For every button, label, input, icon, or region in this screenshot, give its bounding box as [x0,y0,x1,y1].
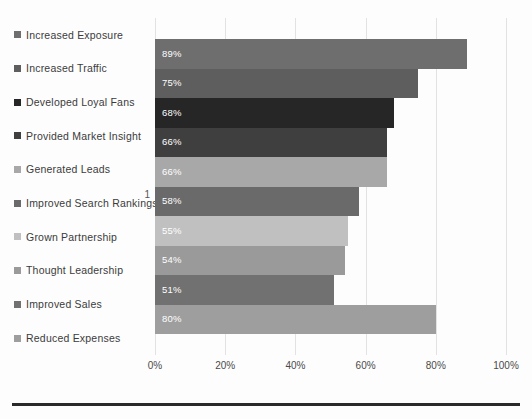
legend-item-label: Improved Sales [26,299,102,310]
legend-swatch-icon [14,132,21,139]
bar[interactable]: 68% [155,98,394,128]
plot-area: 89%75%68%66%66%58%55%54%51%80% [155,18,506,355]
x-axis-tick-label: 60% [356,360,376,371]
legend-item[interactable]: Increased Traffic [14,52,152,86]
legend-swatch-icon [14,166,21,173]
x-axis-ticks: 0%20%40%60%80%100% [155,360,506,376]
x-axis-tick-label: 80% [426,360,446,371]
bar[interactable]: 66% [155,157,387,187]
legend-item[interactable]: Improved Sales [14,288,152,322]
bar[interactable]: 51% [155,275,334,305]
legend-swatch-icon [14,335,21,342]
legend-item[interactable]: Thought Leadership [14,254,152,288]
bar-series: 89%75%68%66%66%58%55%54%51%80% [155,39,506,334]
legend-swatch-icon [14,200,21,207]
legend-item[interactable]: Reduced Expenses [14,321,152,355]
x-axis-tick-label: 100% [493,360,519,371]
bar-value-label: 55% [162,226,182,236]
bar[interactable]: 54% [155,246,345,276]
chart-screenshot: Increased ExposureIncreased TrafficDevel… [0,0,532,419]
x-axis-tick-label: 20% [215,360,235,371]
bar-value-label: 80% [162,315,182,325]
legend-swatch-icon [14,31,21,38]
legend-swatch-icon [14,267,21,274]
bar-row: 75% [155,69,506,99]
legend-item-label: Thought Leadership [26,265,123,276]
bar-row: 58% [155,187,506,217]
bar[interactable]: 89% [155,39,467,69]
bar-row: 80% [155,305,506,335]
legend-item-label: Generated Leads [26,164,110,175]
legend-item[interactable]: Generated Leads [14,153,152,187]
chart-legend: Increased ExposureIncreased TrafficDevel… [0,18,152,355]
legend-item[interactable]: Developed Loyal Fans [14,85,152,119]
legend-item[interactable]: Increased Exposure [14,18,152,52]
legend-swatch-icon [14,99,21,106]
bar-row: 51% [155,275,506,305]
bar-row: 89% [155,39,506,69]
bar-row: 66% [155,157,506,187]
legend-swatch-icon [14,65,21,72]
bar-row: 54% [155,246,506,276]
bar[interactable]: 80% [155,305,436,335]
gridline [506,18,507,355]
legend-swatch-icon [14,233,21,240]
bottom-divider [12,403,520,406]
legend-item-label: Reduced Expenses [26,333,120,344]
bar-row: 55% [155,216,506,246]
bar[interactable]: 55% [155,216,348,246]
bar-value-label: 58% [162,197,182,207]
bar[interactable]: 58% [155,187,359,217]
legend-item-label: Provided Market Insight [26,131,141,142]
bar-row: 68% [155,98,506,128]
bar-value-label: 66% [162,138,182,148]
x-axis-tick-label: 0% [148,360,162,371]
bar-value-label: 54% [162,256,182,266]
legend-item-label: Grown Partnership [26,232,117,243]
legend-item[interactable]: Grown Partnership [14,220,152,254]
bar-value-label: 75% [162,79,182,89]
category-axis-label: 1 [130,189,150,200]
bar[interactable]: 66% [155,128,387,158]
bar[interactable]: 75% [155,69,418,99]
x-axis-tick-label: 40% [285,360,305,371]
legend-item-label: Developed Loyal Fans [26,97,135,108]
legend-item-label: Increased Traffic [26,63,107,74]
bar-value-label: 66% [162,167,182,177]
legend-item[interactable]: Provided Market Insight [14,119,152,153]
bar-value-label: 89% [162,49,182,59]
legend-swatch-icon [14,301,21,308]
legend-item-label: Increased Exposure [26,30,123,41]
bar-value-label: 68% [162,108,182,118]
bar-value-label: 51% [162,285,182,295]
bar-row: 66% [155,128,506,158]
